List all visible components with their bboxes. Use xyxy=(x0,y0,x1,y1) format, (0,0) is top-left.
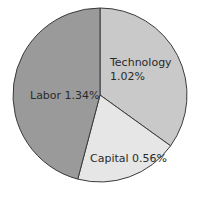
pie-chart: Technology 1.02% Capital 0.56% Labor 1.3… xyxy=(0,0,197,198)
pie-chart-svg: Technology 1.02% Capital 0.56% Labor 1.3… xyxy=(0,0,197,198)
technology-value: 1.02% xyxy=(110,70,145,83)
capital-label: Capital 0.56% xyxy=(90,152,167,165)
labor-label: Labor 1.34% xyxy=(30,89,100,102)
technology-label: Technology xyxy=(109,56,172,69)
